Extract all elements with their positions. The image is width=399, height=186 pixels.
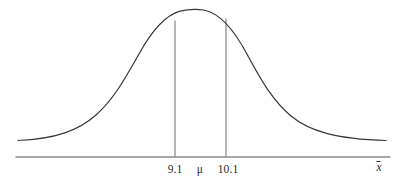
normal-curve-path: [18, 9, 386, 140]
normal-distribution-figure: 9.1 μ 10.1 x: [0, 0, 399, 186]
bell-curve-plot: [0, 0, 399, 186]
x-axis-label-xbar: x: [376, 160, 381, 173]
tick-label-mean-mu: μ: [197, 163, 203, 175]
xbar-overline-glyph: x: [376, 160, 381, 173]
tick-label-lower-bound: 9.1: [168, 163, 183, 175]
tick-label-upper-bound: 10.1: [218, 163, 239, 175]
